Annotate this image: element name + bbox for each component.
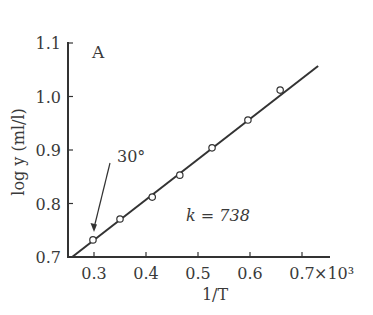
x-tick-label: 0.7 — [289, 264, 314, 283]
data-point — [277, 87, 283, 93]
x-axis-label: 1/T — [202, 285, 229, 304]
data-point — [90, 237, 96, 243]
chart: 0.70.80.91.01.1 0.30.40.50.60.7 A log y … — [0, 0, 373, 315]
data-point — [149, 194, 155, 200]
y-tick-label: 1.1 — [36, 34, 61, 53]
arrowhead-icon — [91, 223, 98, 232]
data-point — [245, 117, 251, 123]
data-point — [209, 145, 215, 151]
data-point — [117, 216, 123, 222]
x-tick-label: 0.3 — [81, 264, 106, 283]
y-tick-label: 1.0 — [36, 88, 61, 107]
x-tick-label: 0.4 — [133, 264, 158, 283]
data-point — [177, 172, 183, 178]
y-tick-label: 0.8 — [36, 195, 61, 214]
annotation-30deg-label: 30° — [117, 147, 145, 166]
x-tick-label: 0.6 — [237, 264, 262, 283]
arrow-line — [94, 163, 110, 228]
x-tick-label: 0.5 — [185, 264, 210, 283]
fit-line — [72, 66, 318, 257]
annotation-k: k = 738 — [186, 206, 250, 225]
regression-line — [72, 66, 318, 257]
panel-label: A — [91, 42, 105, 62]
x-multiplier: ×10³ — [314, 264, 354, 283]
y-tick-label: 0.9 — [36, 141, 61, 160]
y-axis-label: log y (ml/l) — [9, 108, 28, 195]
y-tick-label: 0.7 — [36, 248, 61, 267]
